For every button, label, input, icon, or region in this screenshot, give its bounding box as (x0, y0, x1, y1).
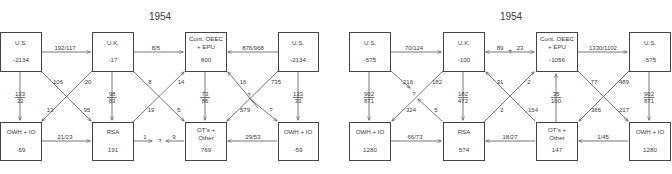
flow-ots-cont-num: 35 (553, 91, 560, 97)
node-label: U.S. (644, 39, 656, 46)
arrow-us-rsa (41, 71, 91, 121)
node-owh-left: OWH + IO -59 (1, 123, 42, 161)
node-value: 574 (459, 146, 470, 153)
flow-uk-ots: 8 (148, 79, 152, 85)
node-us-left: U.S. -2134 (1, 33, 42, 72)
node-label: + EPU (197, 43, 215, 50)
flow-us-owh-den: 871 (364, 98, 375, 104)
flow-usr-cont: 876/968 (242, 45, 264, 51)
flow-usr-ots: 489 (619, 79, 630, 85)
node-label: RSA (458, 128, 472, 135)
flow-cont-owhr: ? (269, 107, 273, 113)
node-cont-oeec: Cont. OEEC + EPU 800 (186, 33, 227, 72)
node-label: Cont. OEEC (189, 35, 224, 42)
diagram-right: 1954 70/124 89 ? 23 1330/1102 902 871 18… (350, 11, 671, 161)
flow-usr-owhr-num: 902 (644, 91, 655, 97)
node-value: 191 (108, 146, 119, 153)
flow-owh-rsa: 66/73 (407, 134, 423, 140)
flow-usr-ots-end: 579 (240, 107, 251, 113)
flow-us-owh-num: 902 (364, 91, 375, 97)
flow-usr-owhr-den: 33 (295, 98, 302, 104)
node-label: OT's + (197, 126, 216, 133)
flow-usr-ots: 735 (271, 79, 282, 85)
flow-ots-cont-den: 100 (551, 98, 562, 104)
node-us-right: U.S. -2134 (279, 33, 319, 72)
node-owh-right: OWH + IO -59 (279, 123, 319, 161)
node-value: -59 (294, 146, 304, 153)
node-label: Cont. OEEC (540, 35, 575, 42)
node-label: U.S. (292, 39, 304, 46)
flow-owh-end: 324 (406, 107, 417, 113)
flow-rsa-cont-end: 19 (148, 107, 155, 113)
node-label: OT's + (548, 126, 567, 133)
diagram-title: 1954 (149, 11, 172, 22)
flow-ots-q: 9 (172, 134, 176, 140)
node-value: -59 (17, 146, 27, 153)
flow-owhr-ots: 29/53 (245, 134, 261, 140)
arrow-ots-cont (228, 72, 258, 108)
node-label: Other (198, 134, 213, 141)
flow-us-rsa: 106 (53, 79, 64, 85)
node-value: 1280 (643, 146, 657, 153)
flow-uk-ots-end: 5 (177, 107, 181, 113)
node-value: 1280 (363, 146, 377, 153)
arrow-cont-owhr (249, 98, 277, 121)
diagram-title: 1954 (500, 11, 523, 22)
node-label: U.S. (364, 39, 376, 46)
node-value: -2134 (290, 56, 306, 63)
arrow-rsa-cont (133, 72, 184, 122)
flow-unknown: ? (247, 92, 251, 98)
node-value: -100 (458, 56, 471, 63)
node-value: 800 (201, 56, 212, 63)
flow-us-owh-num: 133 (15, 91, 26, 97)
node-us-right: U.S. -575 (630, 33, 671, 72)
node-ots-other: OT's + Other 147 (537, 123, 578, 161)
node-label: OWH + IO (356, 128, 385, 135)
flow-uk-owh: 13 (47, 107, 54, 113)
node-uk: U.K. -17 (93, 33, 134, 72)
flow-uk-cont-a: 89 (497, 45, 504, 51)
flow-uk-rsa-den: 472 (458, 98, 469, 104)
node-value: 769 (201, 146, 212, 153)
flow-cont-usr: 1330/1102 (589, 45, 618, 51)
flow-uk-cont-b: 23 (517, 45, 524, 51)
node-label: Other (549, 134, 564, 141)
flow-us-cross: 216 (403, 79, 414, 85)
node-value: -1056 (549, 56, 565, 63)
flow-owh-uk: 20 (85, 79, 92, 85)
node-ots-other: OT's + Other 769 (186, 123, 227, 161)
node-value: 147 (552, 146, 563, 153)
flow-uk-rsa-num: 98 (109, 91, 116, 97)
flow-rsa-cross: 5 (434, 107, 438, 113)
arrow-uk-ots (133, 71, 184, 121)
node-label: + EPU (548, 43, 566, 50)
flow-uk-rsa-den: 83 (109, 98, 116, 104)
flow-ots-uk: 31 (497, 79, 504, 85)
flow-ots-rsa: 18/27 (502, 134, 518, 140)
flow-uk-rsa-num: 182 (458, 91, 469, 97)
node-label: U.S. (15, 39, 27, 46)
flow-rsa-cont: 2 (527, 79, 531, 85)
node-label: OWH + IO (7, 128, 36, 135)
flow-uk-cont: 8/5 (152, 45, 161, 51)
node-cont-oeec: Cont. OEEC + EPU -1056 (537, 33, 578, 72)
flow-rsa-q: 1 (143, 134, 147, 140)
node-rsa: RSA 574 (444, 123, 485, 161)
flow-owhr-ots: 1/45 (597, 134, 609, 140)
node-label: U.K. (458, 39, 470, 46)
node-label: RSA (107, 128, 121, 135)
flow-cont-ots-num: 73 (202, 91, 209, 97)
flow-uk-ots-end: 154 (528, 107, 539, 113)
trade-flow-diagrams: 1954 192/117 8/5 876/968 133 33 98 83 73… (0, 0, 672, 174)
flow-usr-owhr-num: 133 (293, 91, 304, 97)
node-rsa: RSA 191 (93, 123, 134, 161)
arrow-rsa-cross (418, 99, 442, 121)
node-label: U.K. (107, 39, 119, 46)
flow-us-uk: 192/117 (54, 45, 76, 51)
flow-us-uk: 70/124 (405, 45, 424, 51)
flow-q-mark: ? (158, 138, 162, 144)
node-value: -2134 (13, 56, 29, 63)
node-value: -575 (364, 56, 377, 63)
flow-unknown: ? (412, 91, 416, 97)
node-value: -575 (644, 56, 657, 63)
